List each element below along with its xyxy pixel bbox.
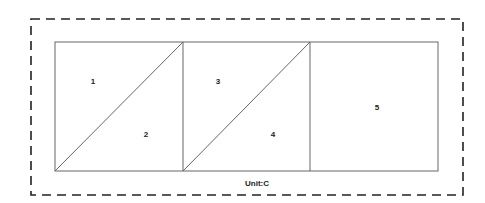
region-label-1: 1	[91, 77, 96, 86]
region-label-4: 4	[271, 130, 276, 139]
diagonal-1	[55, 42, 183, 171]
outer-dashed-border	[31, 19, 463, 195]
region-label-3: 3	[216, 77, 221, 86]
diagram-canvas: 1 2 3 4 5 Unit:C	[0, 0, 485, 203]
region-label-5: 5	[375, 103, 380, 112]
unit-label: Unit:C	[245, 179, 269, 188]
region-label-2: 2	[144, 130, 149, 139]
diagonal-2	[183, 42, 310, 171]
